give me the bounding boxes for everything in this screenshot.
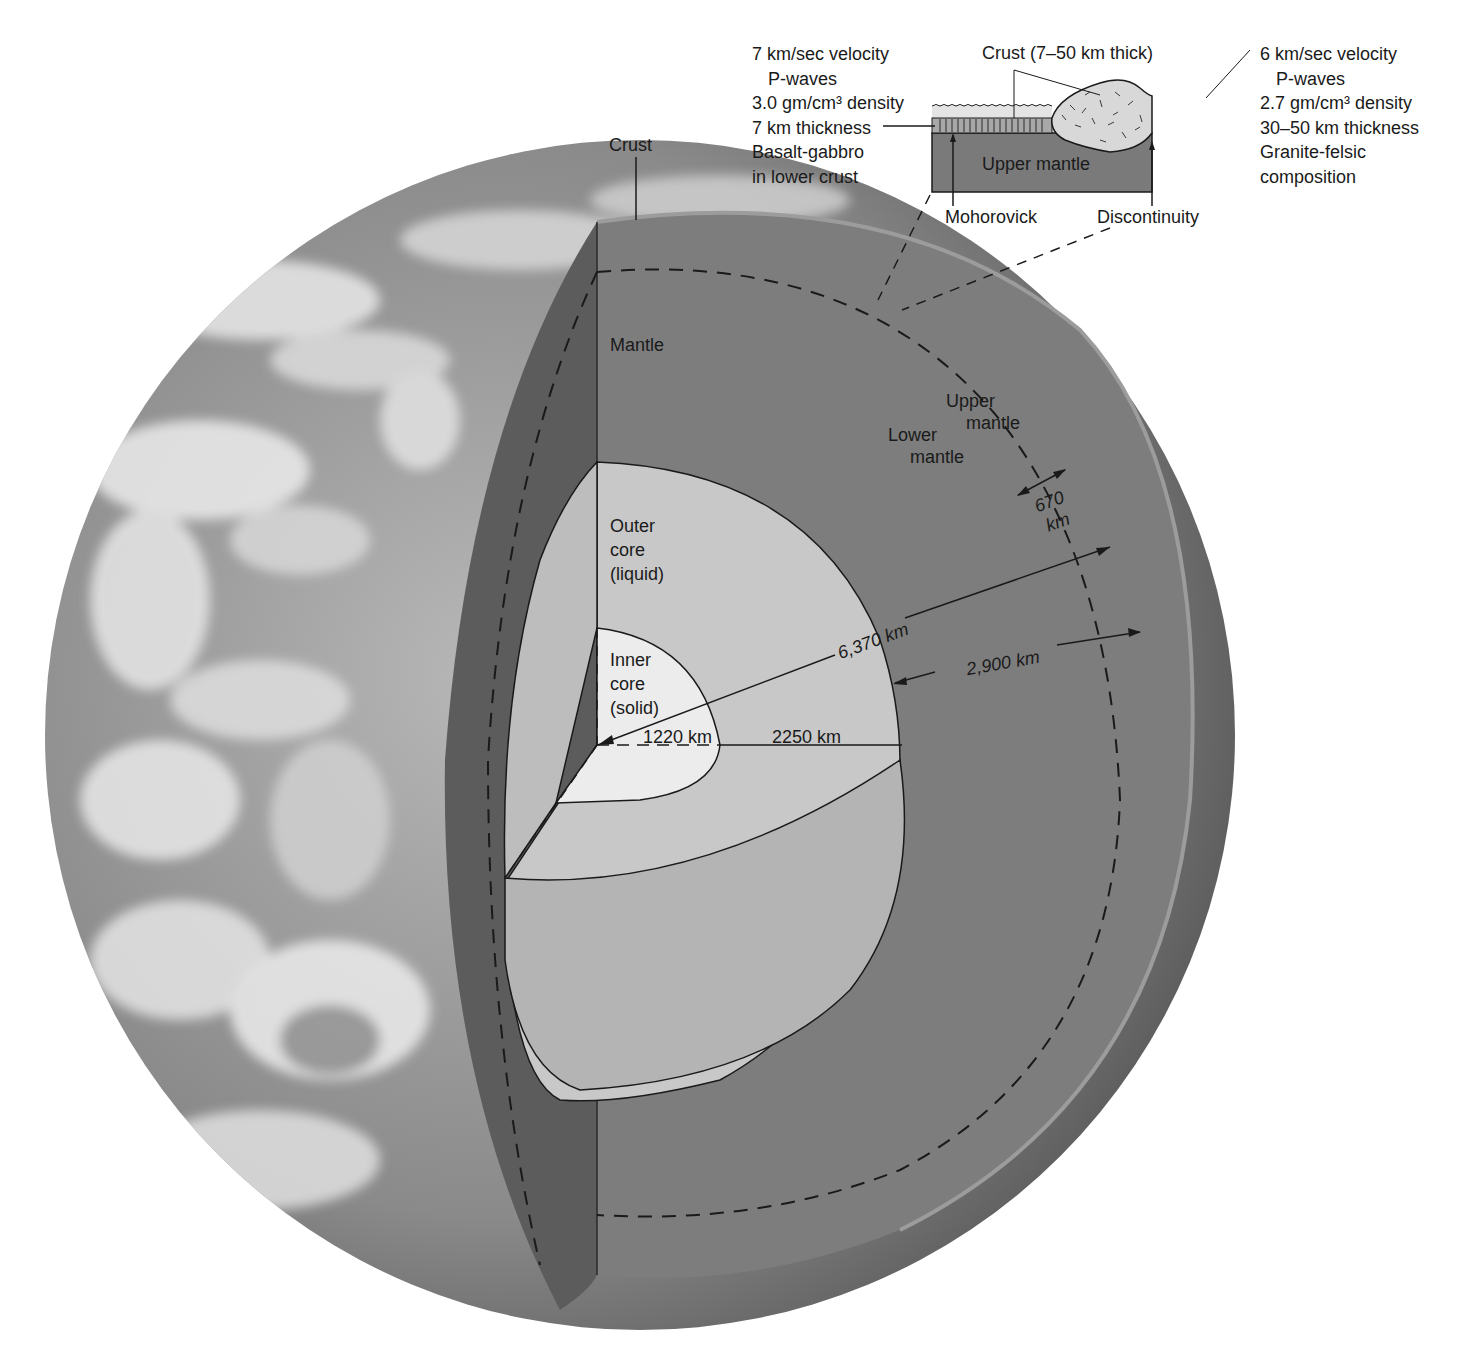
inset-continental-crust xyxy=(1052,80,1152,152)
outer-core-thickness-label: 2250 km xyxy=(772,726,841,748)
continental-crust-properties: 6 km/sec velocity P-waves 2.7 gm/cm³ den… xyxy=(1260,42,1419,189)
inner-core-label: Inner core (solid) xyxy=(610,648,659,720)
diagram-graphics xyxy=(0,0,1469,1347)
mohorovick-label: Mohorovick xyxy=(945,206,1037,228)
continental-pointer xyxy=(1206,50,1250,98)
outer-core-label: Outer core (liquid) xyxy=(610,514,664,586)
mantle-label: Mantle xyxy=(610,334,664,356)
inner-core-radius-label: 1220 km xyxy=(643,726,712,748)
crust-pointer-continental xyxy=(1014,70,1100,95)
oceanic-crust-properties: 7 km/sec velocity P-waves 3.0 gm/cm³ den… xyxy=(752,42,904,189)
inset-ocean-water xyxy=(932,106,1052,118)
inset-oceanic-crust xyxy=(932,118,1052,133)
inset-upper-mantle-label: Upper mantle xyxy=(982,153,1090,175)
crust-inset xyxy=(883,50,1250,206)
lower-mantle-label: Lower mantle xyxy=(888,424,964,468)
crust-label: Crust xyxy=(609,134,652,156)
earth-interior-diagram: Crust Mantle Upper mantle Lower mantle 6… xyxy=(0,0,1469,1347)
inset-crust-label: Crust (7–50 km thick) xyxy=(982,42,1153,64)
discontinuity-label: Discontinuity xyxy=(1097,206,1199,228)
